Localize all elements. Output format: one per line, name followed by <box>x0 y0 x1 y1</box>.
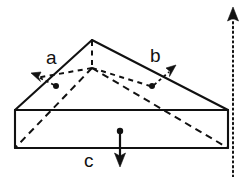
reference-axis-group <box>228 7 239 177</box>
vector-a-origin-dot <box>53 83 59 89</box>
arrow-upleft-icon <box>31 72 41 82</box>
diagram-canvas: a b c <box>0 0 241 177</box>
arrow-upright-icon <box>166 65 176 77</box>
hidden-edge-back-apex-to-bottom-left <box>15 68 92 148</box>
edge-label-c: c <box>84 151 94 170</box>
edge-label-b: b <box>150 46 161 65</box>
edge-label-a: a <box>46 48 57 67</box>
hidden-edge-back-right-slope <box>92 68 150 86</box>
hidden-edge-back-left-slope <box>36 68 92 78</box>
prism-drawing <box>0 0 241 177</box>
